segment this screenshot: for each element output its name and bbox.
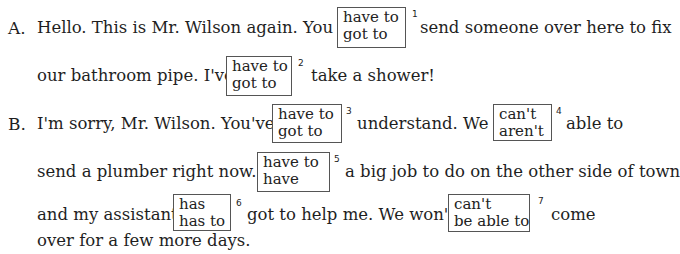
choice-box-1[interactable]: have to got to <box>337 7 406 48</box>
blank-number: 3 <box>346 106 352 116</box>
speaker-label-a: A. <box>8 18 26 38</box>
choice-option[interactable]: got to <box>232 75 291 92</box>
choice-option[interactable]: got to <box>343 26 405 43</box>
dialogue-text: take a shower! <box>311 66 435 86</box>
blank-number: 7 <box>538 196 544 206</box>
choice-option[interactable]: can't <box>499 106 551 123</box>
dialogue-text: Hello. This is Mr. Wilson again. You <box>37 18 333 38</box>
blank-number: 1 <box>412 9 418 19</box>
dialogue-text: send someone over here to fix <box>420 18 672 38</box>
dialogue-text: send a plumber right now. I <box>37 162 268 182</box>
blank-number: 2 <box>298 58 304 68</box>
choice-box-6[interactable]: has has to <box>173 194 231 231</box>
choice-option[interactable]: have to <box>263 154 329 171</box>
choice-box-4[interactable]: can't aren't <box>493 104 552 141</box>
speaker-label-b: B. <box>8 114 26 134</box>
dialogue-text: able to <box>566 114 623 134</box>
choice-option[interactable]: have to <box>343 9 405 26</box>
dialogue-text: got to help me. We won't <box>247 205 455 225</box>
blank-number: 4 <box>556 106 562 116</box>
dialogue-text: understand. We <box>357 114 488 134</box>
dialogue-text: a big job to do on the other side of tow… <box>345 162 680 182</box>
blank-number: 5 <box>334 154 340 164</box>
choice-option[interactable]: have <box>263 171 329 188</box>
choice-box-7[interactable]: can't be able to <box>448 194 530 232</box>
choice-box-5[interactable]: have to have <box>257 152 330 192</box>
dialogue-text: our bathroom pipe. I've <box>37 66 234 86</box>
choice-option[interactable]: aren't <box>499 123 551 140</box>
choice-option[interactable]: has <box>179 196 230 213</box>
choice-option[interactable]: can't <box>454 196 529 213</box>
choice-box-2[interactable]: have to got to <box>226 56 292 96</box>
dialogue-text: over for a few more days. <box>37 231 251 251</box>
choice-option[interactable]: have to <box>278 106 341 123</box>
dialogue-text: I'm sorry, Mr. Wilson. You've <box>37 114 275 134</box>
choice-option[interactable]: got to <box>278 123 341 140</box>
dialogue-text: and my assistant <box>37 205 178 225</box>
choice-option[interactable]: have to <box>232 58 291 75</box>
choice-option[interactable]: be able to <box>454 213 529 230</box>
blank-number: 6 <box>236 198 242 208</box>
choice-option[interactable]: has to <box>179 213 230 230</box>
choice-box-3[interactable]: have to got to <box>272 104 342 143</box>
dialogue-text: come <box>551 205 596 225</box>
